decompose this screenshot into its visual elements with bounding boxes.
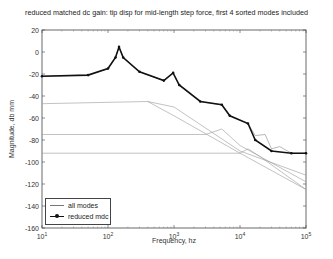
svg-text:-80: -80	[29, 137, 39, 144]
legend-item-all-modes: all modes	[46, 200, 110, 211]
svg-text:-100: -100	[25, 159, 39, 166]
x-axis-label: Frequency, hz	[152, 237, 196, 245]
legend-swatch-thin-line	[50, 205, 64, 206]
svg-text:-140: -140	[25, 203, 39, 210]
legend: all modes reduced mdc	[45, 198, 111, 225]
svg-text:104: 104	[235, 231, 246, 240]
svg-text:-60: -60	[29, 115, 39, 122]
series-lines	[41, 46, 308, 155]
legend-marker-dot	[55, 214, 59, 218]
svg-text:105: 105	[301, 231, 312, 240]
svg-text:-120: -120	[25, 181, 39, 188]
svg-text:20: 20	[31, 27, 39, 34]
svg-text:-160: -160	[25, 225, 39, 232]
svg-text:101: 101	[37, 231, 48, 240]
svg-text:-40: -40	[29, 93, 39, 100]
legend-item-reduced-mdc: reduced mdc	[46, 211, 110, 222]
svg-text:102: 102	[103, 231, 114, 240]
y-axis-label: Magnitude, db mm	[8, 100, 16, 158]
modal-lines	[42, 102, 306, 190]
svg-text:0: 0	[35, 49, 39, 56]
svg-text:-20: -20	[29, 71, 39, 78]
